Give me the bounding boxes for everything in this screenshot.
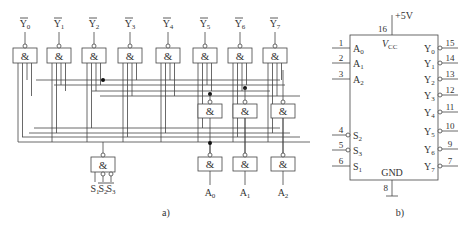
pin-number: 10	[446, 121, 456, 131]
pin-number: 12	[446, 85, 455, 95]
and-symbol: &	[236, 50, 245, 62]
junction-dot	[208, 141, 212, 145]
inversion-bubble	[243, 100, 247, 104]
output-label-y3: Y3	[125, 18, 136, 31]
decoder-diagram: &Y0&Y1&Y2&Y3&Y4&Y5&Y6&Y7&&&&A0&A1&A2&S1S…	[0, 0, 468, 225]
inversion-bubble	[109, 172, 113, 176]
pin-number: 6	[339, 156, 344, 166]
and-symbol: &	[99, 159, 108, 171]
pin-number: 11	[446, 102, 455, 112]
inversion-bubble	[243, 153, 247, 157]
inversion-bubble	[273, 44, 277, 48]
output-label-y6: Y6	[235, 18, 246, 31]
caption-b: b)	[396, 207, 404, 219]
caption-a: a)	[162, 207, 170, 219]
output-label-y4: Y4	[163, 18, 174, 31]
output-label-y7: Y7	[270, 18, 281, 31]
inversion-bubble	[238, 44, 242, 48]
inversion-bubble	[101, 172, 105, 176]
inversion-bubble	[346, 148, 350, 152]
inversion-bubble	[208, 153, 212, 157]
address-input-label-a1: A1	[240, 187, 251, 200]
and-symbol: &	[206, 158, 215, 170]
inversion-bubble	[438, 77, 442, 81]
pin-number: 9	[448, 139, 453, 149]
pin-number: 4	[339, 125, 344, 135]
and-symbol: &	[201, 50, 210, 62]
inversion-bubble	[101, 153, 105, 157]
gnd-label: GND	[381, 167, 403, 178]
inversion-bubble	[23, 44, 27, 48]
pin-number: 15	[446, 38, 456, 48]
inversion-bubble	[166, 44, 170, 48]
chip-pinout-b: +5V16VCC8GND1A02A13A24S25S36S115Y014Y113…	[332, 10, 458, 196]
inversion-bubble	[92, 44, 96, 48]
inversion-bubble	[438, 129, 442, 133]
pin-number: 7	[448, 156, 453, 166]
output-label-y1: Y1	[54, 18, 65, 31]
output-label-y2: Y2	[89, 18, 100, 31]
inversion-bubble	[203, 44, 207, 48]
pin-number: 1	[339, 38, 344, 48]
pin-number-gnd: 8	[384, 183, 389, 193]
inversion-bubble	[438, 147, 442, 151]
and-symbol: &	[279, 158, 288, 170]
inversion-bubble	[281, 153, 285, 157]
inversion-bubble	[346, 133, 350, 137]
enable-input-label-s3: S3	[106, 183, 116, 196]
inversion-bubble	[128, 44, 132, 48]
pin-number: 2	[339, 53, 344, 63]
and-symbol: &	[164, 50, 173, 62]
pin-number: 5	[339, 140, 344, 150]
inversion-bubble	[438, 110, 442, 114]
pin-number: 14	[446, 53, 456, 63]
and-symbol: &	[241, 158, 250, 170]
pin-number: 3	[339, 69, 344, 79]
and-symbol: &	[55, 50, 64, 62]
and-symbol: &	[90, 50, 99, 62]
and-symbol: &	[206, 105, 215, 117]
and-symbol: &	[279, 105, 288, 117]
inversion-bubble	[438, 164, 442, 168]
logic-circuit-a: &Y0&Y1&Y2&Y3&Y4&Y5&Y6&Y7&&&&A0&A1&A2&S1S…	[13, 18, 310, 200]
pin-number-vcc: 16	[378, 24, 388, 34]
inversion-bubble	[57, 44, 61, 48]
and-symbol: &	[271, 50, 280, 62]
junction-dot	[101, 78, 105, 82]
pin-number: 13	[446, 69, 456, 79]
and-symbol: &	[241, 105, 250, 117]
supply-label: +5V	[395, 10, 414, 21]
output-label-y5: Y5	[200, 18, 211, 31]
inversion-bubble	[281, 100, 285, 104]
address-input-label-a2: A2	[278, 187, 289, 200]
inversion-bubble	[438, 93, 442, 97]
output-label-y0: Y0	[20, 18, 31, 31]
and-symbol: &	[126, 50, 135, 62]
inversion-bubble	[438, 46, 442, 50]
address-input-label-a0: A0	[205, 187, 216, 200]
inversion-bubble	[208, 100, 212, 104]
inversion-bubble	[438, 61, 442, 65]
and-symbol: &	[21, 50, 30, 62]
